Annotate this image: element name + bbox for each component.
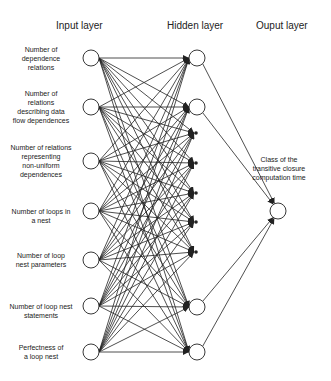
label-line: Number of loop nest bbox=[0, 302, 82, 311]
edge-input-5-to-hidden-9 bbox=[99, 252, 194, 260]
edge-input-3-to-hidden-6 bbox=[99, 161, 194, 163]
input-node-4 bbox=[83, 203, 99, 219]
hidden-ellipsis-dot bbox=[194, 250, 198, 254]
input-node-label-4: Number of loops ina nest bbox=[0, 207, 82, 225]
label-line: describing data bbox=[0, 107, 82, 116]
input-node-3 bbox=[83, 153, 99, 169]
edge-input-1-to-hidden-5 bbox=[99, 58, 194, 133]
input-node-label-1: Number ofdependencerelations bbox=[0, 45, 82, 72]
output-node bbox=[270, 203, 286, 219]
input-node-1 bbox=[83, 50, 99, 66]
label-line: dependences bbox=[0, 170, 82, 179]
label-line: a nest bbox=[0, 216, 82, 225]
label-line: representing bbox=[0, 152, 82, 161]
hidden-node-1 bbox=[189, 50, 205, 66]
edge-input-2-to-hidden-8 bbox=[99, 107, 194, 222]
input-node-7 bbox=[83, 344, 99, 360]
label-line: nest parameters bbox=[0, 260, 82, 269]
label-line: Class of the bbox=[239, 155, 319, 164]
edge-input-6-to-hidden-9 bbox=[99, 252, 194, 306]
hidden-ellipsis-dot bbox=[194, 220, 198, 224]
edge-hidden-3-to-output bbox=[203, 217, 274, 301]
label-line: statements bbox=[0, 311, 82, 320]
label-line: Number of bbox=[0, 89, 82, 98]
input-node-label-5: Number of loopnest parameters bbox=[0, 251, 82, 269]
label-line: relations bbox=[0, 63, 82, 72]
label-line: non-uniform bbox=[0, 161, 82, 170]
label-line: Number of relations bbox=[0, 143, 82, 152]
label-line: computation time bbox=[239, 173, 319, 182]
label-line: flow dependences bbox=[0, 116, 82, 125]
input-node-label-2: Number ofrelationsdescribing dataflow de… bbox=[0, 89, 82, 125]
label-line: Perfectness of bbox=[0, 343, 82, 352]
hidden-ellipsis-dot bbox=[194, 161, 198, 165]
label-line: dependence bbox=[0, 54, 82, 63]
hidden-ellipsis-dot bbox=[194, 191, 198, 195]
label-line: transitive closure bbox=[239, 164, 319, 173]
edge-input-6-to-hidden-5 bbox=[99, 133, 194, 306]
edge-hidden-1-to-output bbox=[203, 64, 275, 204]
input-node-6 bbox=[83, 298, 99, 314]
hidden-node-4 bbox=[189, 344, 205, 360]
edge-input-5-to-hidden-3 bbox=[99, 260, 189, 307]
input-node-5 bbox=[83, 252, 99, 268]
edge-hidden-4-to-output bbox=[203, 218, 275, 346]
label-line: Number of loop bbox=[0, 251, 82, 260]
input-node-label-3: Number of relationsrepresentingnon-unifo… bbox=[0, 143, 82, 179]
hidden-node-3 bbox=[189, 299, 205, 315]
hidden-ellipsis-dot bbox=[194, 131, 198, 135]
label-line: Number of loops in bbox=[0, 207, 82, 216]
label-line: Number of bbox=[0, 45, 82, 54]
label-line: relations bbox=[0, 98, 82, 107]
label-line: a loop nest bbox=[0, 352, 82, 361]
input-node-2 bbox=[83, 99, 99, 115]
output-node-label: Class of thetransitive closurecomputatio… bbox=[239, 155, 319, 182]
input-node-label-7: Perfectness ofa loop nest bbox=[0, 343, 82, 361]
input-node-label-6: Number of loop neststatements bbox=[0, 302, 82, 320]
hidden-node-2 bbox=[189, 99, 205, 115]
